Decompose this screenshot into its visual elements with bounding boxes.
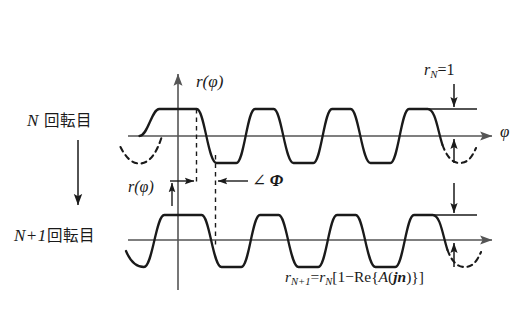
formula-equals: =	[310, 268, 319, 285]
amplitude-label-rn: rN=1	[424, 62, 455, 78]
phase-variable-phi: Φ	[270, 171, 283, 190]
figure-canvas	[0, 0, 529, 316]
upper-wave-dashed-start	[121, 136, 163, 164]
lower-wave-dashed-end	[448, 250, 482, 267]
axis-label-phi: φ	[500, 123, 509, 140]
waveform-phase-figure: N 回転目 N+1回転目 r(φ) φ r(φ) rN=1 ∠ Φ rN+1=r…	[0, 0, 529, 316]
lower-waveform-plot	[126, 183, 492, 267]
formula-rhs-rest: [1−Re{	[332, 268, 378, 285]
row-label-rotation-n-plus-1: N+1回転目	[14, 227, 95, 245]
angle-symbol-icon: ∠	[252, 171, 266, 190]
amplitude-label-value: =1	[438, 61, 455, 78]
phase-angle-label: ∠ Φ	[252, 172, 283, 189]
amplitude-recurrence-formula: rN+1=rN[1−Re{A(jn)}]	[285, 269, 424, 285]
upper-wave-dashed-end	[443, 145, 477, 163]
row-label-n-latin: N	[27, 111, 39, 130]
lower-wave-solid	[126, 215, 448, 267]
formula-lhs-sub: N+1	[291, 276, 310, 287]
row-label-n1-japanese: 回転目	[47, 227, 95, 245]
row-label-n-japanese: 回転目	[44, 112, 92, 130]
formula-rhs-close: }]	[411, 268, 424, 285]
row-label-n1-latin: N+1	[14, 226, 47, 245]
formula-rhs-arg: jn	[393, 268, 406, 285]
amplitude-label-r-sub: N	[430, 68, 437, 80]
axis-label-r-phi-middle: r(φ)	[128, 179, 154, 195]
axis-label-r-phi-top: r(φ)	[196, 73, 223, 90]
formula-rhs-func: A	[379, 268, 388, 285]
row-label-rotation-n: N 回転目	[27, 112, 92, 130]
upper-waveform-plot	[121, 74, 493, 290]
formula-rhs-sub: N	[325, 276, 332, 287]
